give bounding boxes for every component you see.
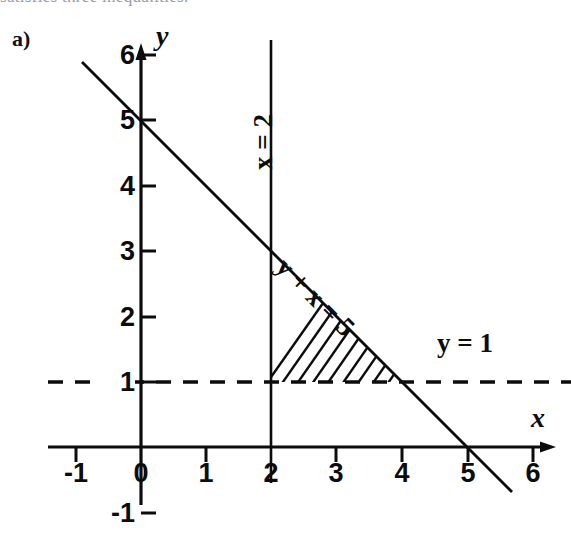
y-tick-label-2: 2 xyxy=(101,304,135,331)
x-axis xyxy=(48,442,556,453)
x-tick-label-1: 1 xyxy=(188,460,224,487)
y-tick-label-1: 1 xyxy=(101,369,135,396)
x-tick-label-5: 5 xyxy=(450,460,486,487)
y-tick-label-4: 4 xyxy=(101,173,135,200)
y-axis-name: y xyxy=(156,22,168,50)
x-axis-name: x xyxy=(531,404,545,432)
x-tick-label-4: 4 xyxy=(384,460,420,487)
y-axis xyxy=(136,43,147,505)
x-tick-label-6: 6 xyxy=(515,460,551,487)
y-tick-label-3: 3 xyxy=(101,238,135,265)
label-line-y-equals-1: y = 1 xyxy=(437,330,493,357)
y-tick-label-6: 6 xyxy=(101,42,135,69)
y-tick-label-5: 5 xyxy=(101,107,135,134)
x-tick-label-2: 2 xyxy=(253,460,289,487)
graph-figure: satisfies three inequalities. a) xyxy=(0,0,571,551)
x-axis-arrowhead xyxy=(540,442,556,453)
y-tick-label--1: -1 xyxy=(92,500,135,527)
y-axis-arrowhead xyxy=(136,43,147,60)
label-line-x-equals-2: x = 2 xyxy=(250,114,277,170)
x-tick-label-0: 0 xyxy=(123,460,159,487)
x-tick-label-3: 3 xyxy=(318,460,354,487)
x-tick-label--1: -1 xyxy=(58,460,94,487)
